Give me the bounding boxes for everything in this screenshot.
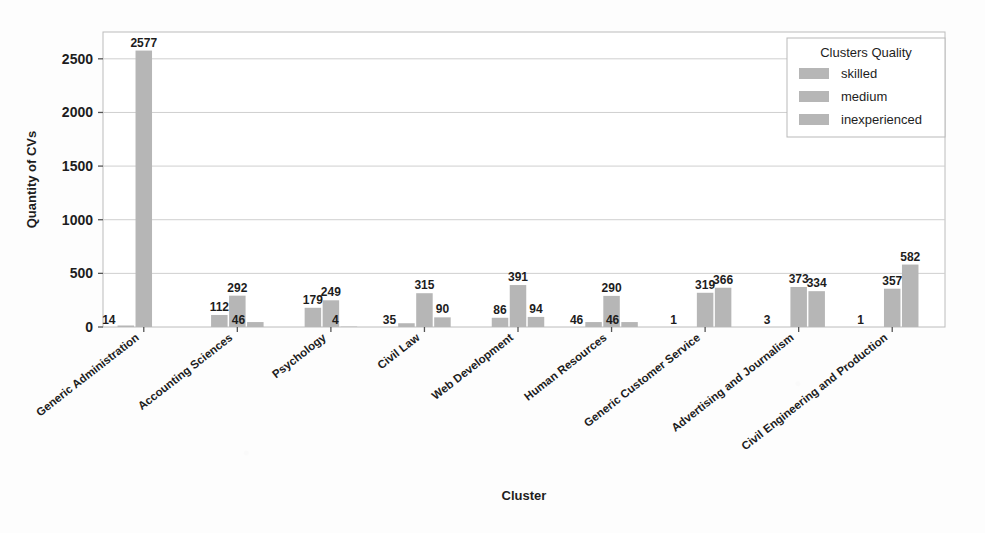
bar [621, 322, 638, 327]
bar-value-label: 249 [321, 285, 341, 299]
y-tick-label: 0 [85, 319, 93, 335]
bar [790, 287, 807, 327]
x-tick-label: Civil Engineering and Production [739, 331, 889, 452]
bar-value-label: 1 [857, 313, 864, 327]
bar [510, 285, 527, 327]
legend-swatch-skilled[interactable] [799, 68, 829, 79]
bar [715, 288, 732, 327]
bar [808, 291, 825, 327]
bar [902, 265, 919, 327]
legend-label-inexperienced[interactable]: inexperienced [841, 112, 922, 127]
bar [211, 315, 228, 327]
bar-value-label: 46 [232, 313, 246, 327]
bar [697, 293, 714, 327]
bar [398, 323, 415, 327]
bar [416, 293, 433, 327]
bar-value-label: 582 [900, 250, 920, 264]
y-axis-title: Quantity of CVs [24, 131, 39, 229]
x-tick-label: Civil Law [375, 331, 422, 371]
bar [884, 289, 901, 327]
bar-value-label: 315 [414, 278, 434, 292]
bar-value-label: 86 [493, 303, 507, 317]
bar-chart: 05001000150020002500Quantity of CVs14257… [0, 0, 985, 533]
bar-value-label: 1 [670, 313, 677, 327]
bar [118, 325, 134, 327]
legend-swatch-inexperienced[interactable] [799, 114, 829, 125]
bar-value-label: 14 [102, 313, 116, 327]
bar-value-label: 357 [882, 274, 902, 288]
bar-value-label: 4 [332, 313, 339, 327]
bar-value-label: 391 [508, 270, 528, 284]
bar [585, 322, 602, 327]
bar-value-label: 112 [210, 300, 230, 314]
legend-title: Clusters Quality [820, 45, 912, 60]
bar [305, 308, 322, 327]
bar-value-label: 292 [227, 281, 247, 295]
y-tick-label: 2500 [62, 51, 93, 67]
bar-value-label: 3 [764, 313, 771, 327]
bar [528, 317, 545, 327]
bar [136, 51, 153, 327]
bar-value-label: 2577 [130, 36, 157, 50]
bar-value-label: 90 [436, 302, 450, 316]
y-tick-label: 500 [70, 265, 94, 281]
bar-value-label: 94 [529, 302, 543, 316]
bar [492, 318, 509, 327]
bar-value-label: 334 [807, 276, 827, 290]
y-tick-label: 2000 [62, 104, 93, 120]
bar-value-label: 290 [602, 281, 622, 295]
chart-canvas: 05001000150020002500Quantity of CVs14257… [0, 0, 985, 533]
bar [434, 317, 451, 327]
x-tick-label: Web Development [429, 331, 515, 402]
x-tick-label: Accounting Sciences [136, 331, 235, 412]
legend-label-medium[interactable]: medium [841, 89, 887, 104]
legend-swatch-medium[interactable] [799, 91, 829, 102]
legend-label-skilled[interactable]: skilled [841, 66, 877, 81]
bar-value-label: 46 [606, 313, 620, 327]
bar-value-label: 366 [713, 273, 733, 287]
bar-value-label: 35 [383, 313, 397, 327]
x-tick-label: Psychology [270, 331, 329, 381]
x-tick-label: Generic Administration [34, 331, 141, 418]
bar-value-label: 46 [570, 313, 584, 327]
y-tick-label: 1000 [62, 212, 93, 228]
bar [247, 322, 263, 327]
x-tick-label: Human Resources [522, 331, 609, 403]
y-tick-label: 1500 [62, 158, 93, 174]
x-axis-title: Cluster [502, 488, 547, 503]
